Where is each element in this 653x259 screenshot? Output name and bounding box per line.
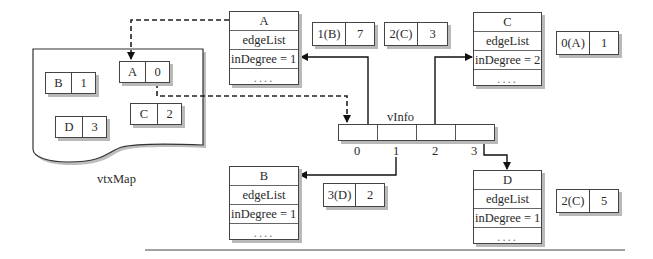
vinfo-cell-1 — [378, 125, 417, 140]
vertex-box-A: A edgeList inDegree = 1 .... — [229, 11, 299, 85]
vinfo-index-0: 0 — [354, 144, 360, 159]
vertex-indegree: inDegree = 1 — [474, 209, 541, 228]
edge-dest: 1(B) — [313, 23, 346, 45]
vtxmap-entry-B: B 1 — [45, 72, 96, 94]
vtxmap-entry-A: A 0 — [119, 61, 170, 83]
edge-weight: 7 — [346, 23, 374, 45]
edge-C-1: 0(A) 1 — [556, 31, 619, 55]
vertex-box-C: C edgeList inDegree = 2 .... — [473, 12, 542, 86]
edge-dest: 2(C) — [385, 23, 418, 45]
edge-weight: 3 — [418, 23, 447, 45]
vertex-indegree: inDegree = 2 — [474, 51, 541, 70]
vertex-indegree: inDegree = 1 — [230, 50, 298, 69]
vertex-more: .... — [474, 228, 541, 246]
vinfo-cell-3 — [456, 125, 494, 140]
vinfo-index-1: 1 — [393, 144, 399, 159]
map-value: 1 — [72, 73, 95, 93]
edge-weight: 1 — [590, 32, 618, 54]
edge-weight: 2 — [356, 184, 384, 206]
arrow-vinfo0-to-A — [301, 57, 368, 124]
vinfo-index-3: 3 — [471, 144, 477, 159]
vinfo-index-2: 2 — [432, 144, 438, 159]
vinfo-array — [338, 124, 495, 141]
edge-B-1: 3(D) 2 — [323, 183, 385, 207]
vinfo-cell-2 — [417, 125, 456, 140]
vinfo-cell-0 — [339, 125, 378, 140]
map-key: B — [46, 73, 72, 93]
vertex-indegree: inDegree = 1 — [230, 205, 298, 224]
vertex-edgelist: edgeList — [474, 190, 541, 209]
vtxmap-entry-C: C 2 — [130, 103, 182, 125]
vertex-name: C — [474, 13, 541, 32]
map-value: 3 — [83, 117, 106, 137]
arrow-vinfo3-to-D — [484, 140, 507, 169]
vertex-name: D — [474, 171, 541, 190]
map-key: C — [131, 104, 158, 124]
edge-dest: 2(C) — [557, 190, 590, 212]
vtxmap-label: vtxMap — [97, 172, 136, 187]
map-value: 0 — [146, 62, 169, 82]
edge-A-2: 2(C) 3 — [384, 22, 448, 46]
map-value: 2 — [158, 104, 181, 124]
vtxmap-entry-D: D 3 — [55, 116, 107, 138]
map-key: D — [56, 117, 83, 137]
vertex-more: .... — [230, 224, 298, 242]
edge-D-1: 2(C) 5 — [556, 189, 619, 213]
edge-weight: 5 — [590, 190, 618, 212]
vertex-edgelist: edgeList — [230, 186, 298, 205]
vinfo-label: vInfo — [387, 110, 414, 125]
vertex-box-D: D edgeList inDegree = 1 .... — [473, 170, 542, 244]
vertex-name: A — [230, 12, 298, 31]
edge-dest: 3(D) — [324, 184, 356, 206]
map-key: A — [120, 62, 146, 82]
vertex-edgelist: edgeList — [474, 32, 541, 51]
arrow-vinfo2-to-C — [435, 57, 472, 124]
edge-A-1: 1(B) 7 — [312, 22, 375, 46]
vertex-edgelist: edgeList — [230, 31, 298, 50]
vertex-box-B: B edgeList inDegree = 1 .... — [229, 166, 299, 240]
vertex-more: .... — [230, 69, 298, 87]
edge-dest: 0(A) — [557, 32, 590, 54]
arrow-vinfo1-to-B — [300, 157, 396, 175]
vertex-more: .... — [474, 70, 541, 88]
vertex-name: B — [230, 167, 298, 186]
